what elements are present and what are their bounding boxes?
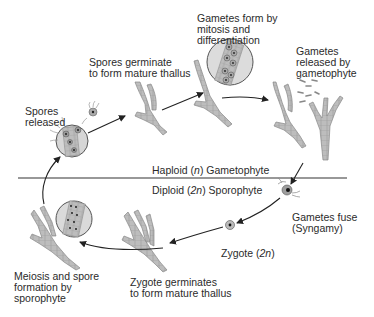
label-zygote: Zygote (2n)	[221, 247, 275, 259]
label-meiosis: Meiosis and spore formation by sporophyt…	[14, 271, 99, 304]
mature-gametophytes-releasing-gametes	[273, 80, 343, 160]
haploid-text-b: ) Gametophyte	[200, 164, 269, 176]
meiosis-sporophyte-illustration	[30, 201, 92, 270]
arrow-spores-to-germinate	[88, 116, 125, 133]
zygote-ploidy: 2n	[260, 247, 272, 259]
label-gametes-form: Gametes form by mitosis and differentiat…	[197, 13, 278, 46]
zygote-illustration	[226, 221, 235, 230]
arrow-released-to-fuse	[291, 163, 303, 184]
label-diploid-sporophyte: Diploid (2n) Sporophyte	[152, 184, 262, 196]
diploid-text-a: Diploid (	[152, 184, 191, 196]
young-sporophyte-thallus	[122, 210, 167, 272]
label-gametes-fuse: Gametes fuse (Syngamy)	[292, 212, 357, 234]
label-zygote-germinates: Zygote germinates to form mature thallus	[130, 277, 232, 299]
label-haploid-gametophyte: Haploid (n) Gametophyte	[152, 164, 269, 176]
gametes-forming-illustration	[194, 39, 253, 127]
arrow-fuse-to-zygote	[237, 198, 280, 223]
arrow-gametes-form-to-released	[222, 97, 268, 100]
haploid-text-a: Haploid (	[152, 164, 194, 176]
young-gametophyte-thallus	[135, 82, 167, 135]
diploid-ploidy: 2n	[191, 184, 203, 196]
label-spores-germinate: Spores germinate to form mature thallus	[89, 57, 191, 79]
zygote-text-b: )	[271, 247, 275, 259]
diploid-text-b: ) Sporophyte	[202, 184, 262, 196]
label-spores-released: Spores released	[25, 106, 65, 128]
syngamy-illustration	[278, 178, 300, 197]
arrow-zygote-to-germinate	[170, 227, 223, 243]
zygote-text-a: Zygote (	[221, 247, 260, 259]
arrow-meiosis-to-spores	[43, 157, 60, 204]
label-gametes-released: Gametes released by gametophyte	[296, 46, 357, 79]
